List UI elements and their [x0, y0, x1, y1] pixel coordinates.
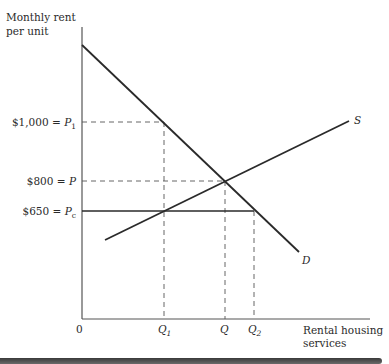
demand-curve	[82, 45, 299, 252]
supply-curve	[105, 121, 349, 240]
bottom-divider	[0, 358, 382, 364]
rent-control-diagram: Monthly rent per unit $1,000 = P1 $800 =…	[0, 0, 389, 364]
x-axis-label-2: services	[303, 337, 346, 349]
quantity-label-q1: Q1	[158, 323, 171, 338]
supply-label: S	[354, 114, 361, 126]
demand-label: D	[301, 254, 311, 266]
price-label-p1: $1,000 = P1	[12, 116, 76, 131]
price-label-pc: $650 = Pc	[23, 205, 77, 220]
origin-label: 0	[76, 323, 83, 335]
y-axis-label-1: Monthly rent	[6, 11, 76, 23]
x-axis-label-1: Rental housing	[303, 324, 383, 336]
quantity-label-q2: Q2	[248, 323, 262, 338]
dashed-guides	[82, 122, 254, 319]
price-label-p: $800 = P	[27, 175, 77, 187]
quantity-label-q: Q	[220, 323, 229, 336]
y-axis-label-2: per unit	[6, 25, 49, 37]
